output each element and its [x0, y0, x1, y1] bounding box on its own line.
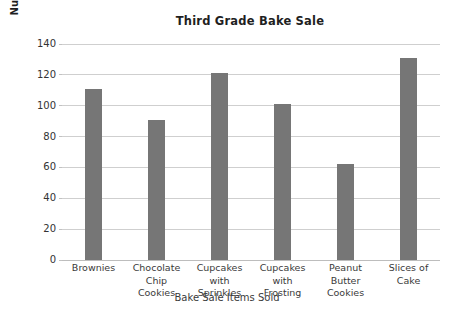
gridline [62, 105, 440, 106]
y-axis-tick-labels: 020406080100120140 [12, 44, 56, 260]
y-axis-tick-label: 120 [16, 70, 56, 80]
bar [400, 58, 417, 260]
y-axis-tick-label: 40 [16, 193, 56, 203]
x-axis-tick-label-line: Slices of [371, 262, 447, 275]
x-axis-title: Bake Sale Items Sold [62, 292, 392, 303]
bar [85, 89, 102, 260]
gridline [62, 167, 440, 168]
x-axis-tick-label-line: Cake [371, 275, 447, 288]
y-axis-tick-label: 0 [16, 255, 56, 265]
gridline [62, 260, 440, 261]
gridline [62, 44, 440, 45]
bar [148, 120, 165, 260]
y-axis-tick-label: 60 [16, 162, 56, 172]
gridline [62, 198, 440, 199]
gridline [62, 74, 440, 75]
x-axis-tick-label: Slices ofCake [371, 262, 447, 287]
bar [274, 104, 291, 260]
y-axis-tick-label: 80 [16, 132, 56, 142]
gridline [62, 229, 440, 230]
y-axis-tick-label: 20 [16, 224, 56, 234]
plot-area [62, 44, 440, 260]
bar [337, 164, 354, 260]
gridline [62, 136, 440, 137]
chart-title: Third Grade Bake Sale [60, 14, 440, 28]
y-axis-tick-label: 100 [16, 101, 56, 111]
y-axis-tick-label: 140 [16, 39, 56, 49]
bar-chart: Third Grade Bake Sale Number of Items So… [0, 0, 463, 314]
bar [211, 73, 228, 260]
